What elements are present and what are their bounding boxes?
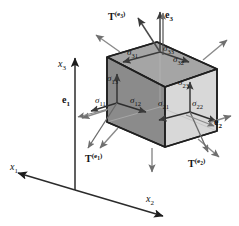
basis-label-e2: e2 (214, 117, 222, 130)
traction-label-e3: T(e3) (108, 11, 125, 22)
axis-x1-line (18, 173, 75, 190)
stress-label-sigma-23: σ23 (178, 78, 189, 89)
basis-label-e3: e3 (165, 10, 173, 23)
stress-cube (107, 42, 217, 147)
traction-label-e1: T(e1) (85, 153, 102, 164)
traction-vector-e1 (88, 103, 117, 148)
traction-label-e2: T(e2) (188, 158, 205, 169)
stress-label-sigma-32: σ32 (173, 55, 184, 66)
stress-label-sigma-22: σ22 (192, 99, 203, 110)
stress-label-sigma-12: σ12 (130, 96, 141, 107)
arrow-neg-top-left (96, 35, 120, 52)
stress-label-sigma-31: σ31 (127, 48, 138, 59)
axis-label-x3: x3 (58, 59, 66, 72)
stress-label-sigma-13: σ13 (107, 74, 118, 85)
stress-cube-diagram (0, 0, 239, 226)
axis-label-x1: x1 (10, 162, 18, 175)
arrow-neg-bottom-left (100, 128, 118, 148)
axis-label-x2: x2 (146, 194, 154, 207)
stress-label-sigma-21: σ21 (158, 99, 169, 110)
basis-label-e1: e1 (62, 95, 70, 108)
arrow-neg-left-lower (82, 110, 107, 118)
figure-canvas: x3 x1 x2 e3 e1 e2 T(e3) T(e1) T(e2) σ31 … (0, 0, 239, 226)
stress-label-sigma-11: σ11 (95, 96, 106, 107)
arrow-neg-bottom-right (198, 139, 219, 157)
arrow-neg-top-right (203, 40, 227, 60)
